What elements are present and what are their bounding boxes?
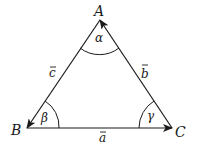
angle-alpha-arc [80, 48, 119, 55]
angle-label-beta: β [40, 111, 48, 125]
side-label-b: b [141, 67, 149, 81]
angle-label-gamma: γ [147, 109, 155, 123]
vertex-label-a: A [92, 3, 104, 19]
side-c-vector [27, 20, 100, 128]
angle-label-alpha: α [95, 31, 103, 45]
side-label-c: c [49, 66, 56, 80]
side-b-vector [100, 20, 172, 128]
vertex-label-b: B [10, 122, 21, 138]
vertex-label-c: C [175, 124, 186, 140]
side-label-a: a [99, 131, 106, 145]
triangle-diagram: A B C α β γ c b a [0, 0, 198, 151]
